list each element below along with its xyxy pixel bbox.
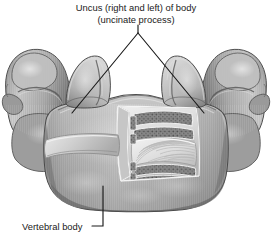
uncus-label-line1: Uncus (right and left) of body (76, 2, 196, 13)
uncus-label: Uncus (right and left) of body (uncinate… (0, 2, 272, 25)
vertebral-body-label: Vertebral body (22, 221, 82, 233)
cervical-vertebra-illustration (0, 0, 272, 245)
uncus-label-line2: (uncinate process) (0, 14, 272, 26)
cutaway-section (117, 106, 199, 183)
